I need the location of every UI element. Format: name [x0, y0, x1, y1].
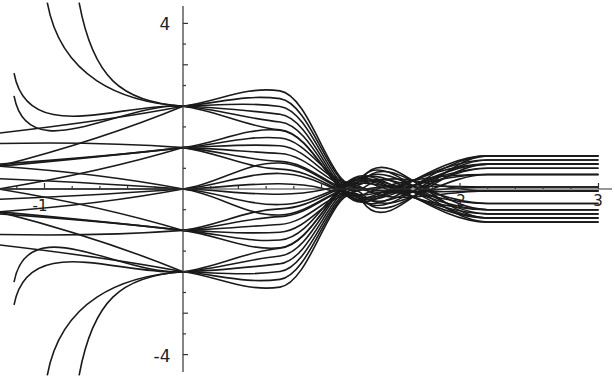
y-tick-label-minus-4: -4 — [154, 346, 171, 366]
x-tick-label-minus-1: -1 — [33, 197, 48, 215]
x-tick-label-3: 3 — [593, 192, 603, 210]
y-tick-label-4: 4 — [160, 14, 171, 34]
chart-plot: 4 -4 -1 2 3 — [0, 0, 615, 383]
x-tick-label-2: 2 — [456, 192, 466, 210]
